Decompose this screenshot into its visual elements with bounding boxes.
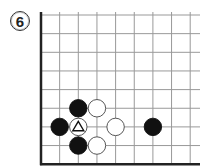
- black-stone: [51, 118, 68, 135]
- black-stone: [144, 118, 161, 135]
- black-stone: [70, 100, 87, 117]
- go-board: [0, 0, 209, 168]
- white-stone: [88, 137, 105, 154]
- board-grid: [40, 12, 200, 165]
- black-stone: [70, 137, 87, 154]
- white-stone: [88, 100, 105, 117]
- white-stone: [107, 118, 124, 135]
